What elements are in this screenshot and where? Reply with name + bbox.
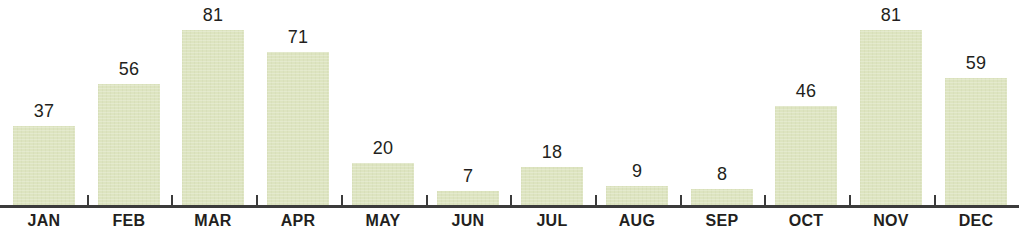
- bar-nov: [860, 30, 922, 206]
- x-axis-label-oct: OCT: [775, 212, 837, 230]
- x-axis-label-feb: FEB: [98, 212, 160, 230]
- bar-mar: [182, 30, 244, 206]
- bar-value-label-jun: 7: [437, 167, 499, 185]
- bar-may: [352, 163, 414, 206]
- x-axis-label-aug: AUG: [606, 212, 668, 230]
- bar-feb: [98, 84, 160, 206]
- x-axis-tick: [256, 195, 258, 206]
- x-axis-tick: [87, 195, 89, 206]
- bar-value-label-jan: 37: [13, 102, 75, 120]
- x-axis-label-mar: MAR: [182, 212, 244, 230]
- bar-value-label-may: 20: [352, 139, 414, 157]
- plot-area: 375681712071898468159: [0, 0, 1019, 206]
- bar-oct: [775, 106, 837, 206]
- bar-dec: [945, 78, 1007, 206]
- x-axis-tick: [426, 195, 428, 206]
- bar-apr: [267, 52, 329, 206]
- bar-value-label-sep: 8: [691, 165, 753, 183]
- bar-value-label-dec: 59: [945, 54, 1007, 72]
- x-axis-label-may: MAY: [352, 212, 414, 230]
- x-axis-label-sep: SEP: [691, 212, 753, 230]
- x-axis-tick: [595, 195, 597, 206]
- x-axis-label-dec: DEC: [945, 212, 1007, 230]
- x-axis-tick: [341, 195, 343, 206]
- bar-jun: [437, 191, 499, 206]
- bar-chart: 375681712071898468159 JANFEBMARAPRMAYJUN…: [0, 0, 1019, 245]
- x-axis-label-jul: JUL: [521, 212, 583, 230]
- bar-jan: [13, 126, 75, 206]
- bar-aug: [606, 186, 668, 206]
- x-axis-label-apr: APR: [267, 212, 329, 230]
- x-axis-tick: [680, 195, 682, 206]
- bar-value-label-nov: 81: [860, 6, 922, 24]
- x-axis-tick: [171, 195, 173, 206]
- bar-value-label-apr: 71: [267, 28, 329, 46]
- bar-value-label-feb: 56: [98, 60, 160, 78]
- x-axis-label-jan: JAN: [13, 212, 75, 230]
- x-axis-tick: [510, 195, 512, 206]
- bar-value-label-oct: 46: [775, 82, 837, 100]
- bar-value-label-aug: 9: [606, 162, 668, 180]
- x-axis-tick: [764, 195, 766, 206]
- x-axis-tick: [934, 195, 936, 206]
- x-axis-label-jun: JUN: [437, 212, 499, 230]
- bar-sep: [691, 189, 753, 206]
- bar-value-label-mar: 81: [182, 6, 244, 24]
- x-axis-tick: [849, 195, 851, 206]
- bar-jul: [521, 167, 583, 206]
- bar-value-label-jul: 18: [521, 143, 583, 161]
- x-axis-label-nov: NOV: [860, 212, 922, 230]
